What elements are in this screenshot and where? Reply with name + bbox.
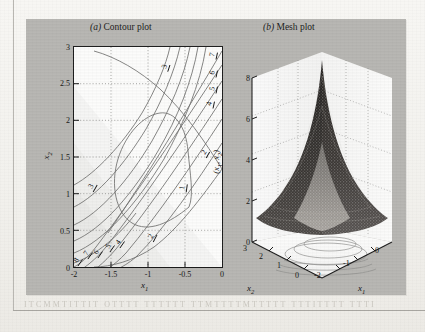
mesh-x1axis-label: x1 xyxy=(358,283,365,295)
contour-axes-frame: 3 7 6 xyxy=(73,46,223,268)
mesh-ztick: 6 xyxy=(246,115,250,124)
contour-ytick: 0.5 xyxy=(60,227,70,236)
mesh-plot: 0 2 4 6 8 3 2 1 0 -2 -1 0 x2 x1 (x1, x2) xyxy=(238,46,406,286)
mesh-title-tag: (b) xyxy=(263,22,274,32)
mesh-plot-title: (b) Mesh plot xyxy=(263,22,315,32)
contour-canvas: 3 7 6 xyxy=(74,47,222,267)
mesh-x2tick: 1 xyxy=(277,261,281,270)
contour-xaxis-label: x1 xyxy=(141,280,148,292)
contour-ytick: 1.5 xyxy=(60,153,70,162)
mesh-x2tick: 3 xyxy=(243,244,247,253)
mesh-canvas xyxy=(238,46,406,286)
contour-xtick: -2 xyxy=(71,270,78,279)
mesh-ztick: 2 xyxy=(246,197,250,206)
contour-yaxis-label: x2 xyxy=(41,152,53,159)
contour-ytick: 3 xyxy=(66,43,70,52)
mesh-x2axis-label: x2 xyxy=(247,283,254,295)
contour-ytick: 1 xyxy=(66,190,70,199)
contour-xtick: -1 xyxy=(145,270,152,279)
contour-title-tag: (a) xyxy=(90,22,101,32)
mesh-x1tick: -1 xyxy=(343,259,350,268)
mesh-x1tick: 0 xyxy=(375,246,379,255)
contour-ytick: 0 xyxy=(66,264,70,273)
scan-bleed-through-text: ITCMMTITTIT OTTTT TTTTTT TTMTTTTMTTTTT T… xyxy=(24,300,386,311)
mesh-ztick: 4 xyxy=(246,156,250,165)
contour-title-text: Contour plot xyxy=(103,22,151,32)
scanned-page: ITCMMTITTIT OTTTT TTTTTT TTMTTTTMTTTTT T… xyxy=(0,0,425,332)
mesh-x1tick: -2 xyxy=(314,271,321,280)
mesh-x2tick: 2 xyxy=(259,252,263,261)
mesh-ztick: 8 xyxy=(246,74,250,83)
contour-plot: 3 7 6 xyxy=(73,46,223,268)
contour-plot-title: (a) Contour plot xyxy=(90,22,152,32)
contour-ytick: 2 xyxy=(66,116,70,125)
contour-ytick: 2.5 xyxy=(60,79,70,88)
contour-xtick: -1.5 xyxy=(105,270,118,279)
page-margin-rule-vertical xyxy=(13,0,14,311)
contour-xtick: 0 xyxy=(220,270,224,279)
contour-xtick: -0.5 xyxy=(179,270,192,279)
mesh-zaxis-label: (x1, x2) xyxy=(211,150,223,174)
figure-panel: (a) Contour plot (b) Mesh plot xyxy=(26,19,406,295)
mesh-x2tick: 0 xyxy=(295,271,299,280)
mesh-title-text: Mesh plot xyxy=(276,22,314,32)
